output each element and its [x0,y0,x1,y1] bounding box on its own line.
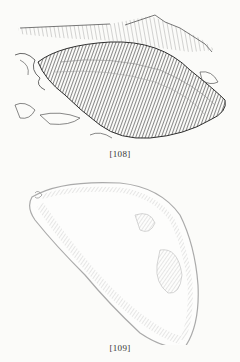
figure-108: [108] [0,0,240,170]
figure-caption: [109] [0,343,240,353]
figure-109: [109] [0,175,240,362]
mussel-exterior-engraving [0,0,240,150]
figure-caption: [108] [0,149,240,159]
mussel-interior-engraving [0,175,240,345]
